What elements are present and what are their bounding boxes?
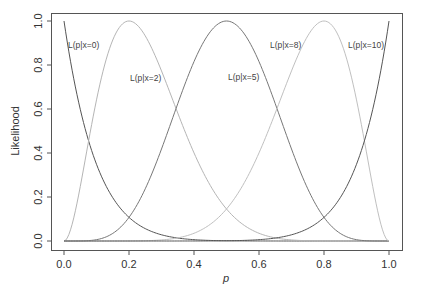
y-axis-title: Likelihood <box>9 106 21 156</box>
curve-x0 <box>64 21 389 241</box>
curve-label: L(p|x=5) <box>228 72 259 82</box>
x-tick-label: 0.8 <box>316 258 331 270</box>
curve-x2 <box>64 21 389 241</box>
y-tick-label: 0.2 <box>32 189 44 204</box>
y-axis: 0.00.20.40.60.81.0 <box>32 13 52 248</box>
curve-labels: L(p|x=0)L(p|x=2)L(p|x=5)L(p|x=8)L(p|x=10… <box>68 40 384 83</box>
curves <box>64 21 389 241</box>
likelihood-chart: 0.00.20.40.60.81.0 0.00.20.40.60.81.0 L(… <box>0 0 423 297</box>
x-axis: 0.00.20.40.60.81.0 <box>56 251 396 271</box>
x-tick-label: 1.0 <box>381 258 396 270</box>
x-tick-label: 0.6 <box>251 258 266 270</box>
x-axis-title: p <box>222 272 229 284</box>
curve-x5 <box>64 21 389 241</box>
y-tick-label: 0.8 <box>32 57 44 72</box>
y-tick-label: 0.4 <box>32 145 44 160</box>
y-tick-label: 0.6 <box>32 101 44 116</box>
curve-label: L(p|x=2) <box>130 73 161 83</box>
curve-x8 <box>64 21 389 241</box>
curve-label: L(p|x=10) <box>348 40 384 50</box>
curve-label: L(p|x=8) <box>270 40 301 50</box>
x-tick-label: 0.4 <box>186 258 201 270</box>
x-tick-label: 0.0 <box>56 258 71 270</box>
y-tick-label: 0.0 <box>32 233 44 248</box>
curve-x10 <box>64 21 389 241</box>
curve-label: L(p|x=0) <box>68 40 99 50</box>
y-tick-label: 1.0 <box>32 13 44 28</box>
x-tick-label: 0.2 <box>121 258 136 270</box>
